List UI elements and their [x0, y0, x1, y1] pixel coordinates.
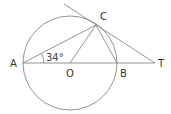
- tangent-line-CT: [64, 4, 155, 63]
- label-O: O: [66, 68, 74, 79]
- angle-label: 34°: [46, 52, 64, 63]
- label-T: T: [157, 58, 165, 69]
- label-C: C: [100, 11, 107, 22]
- label-B: B: [120, 68, 127, 79]
- segment-OC: [70, 25, 96, 63]
- angle-arc: [42, 54, 44, 64]
- segment-BC: [96, 25, 117, 63]
- label-A: A: [10, 58, 17, 69]
- geometry-diagram: A O B C T 34°: [0, 0, 171, 114]
